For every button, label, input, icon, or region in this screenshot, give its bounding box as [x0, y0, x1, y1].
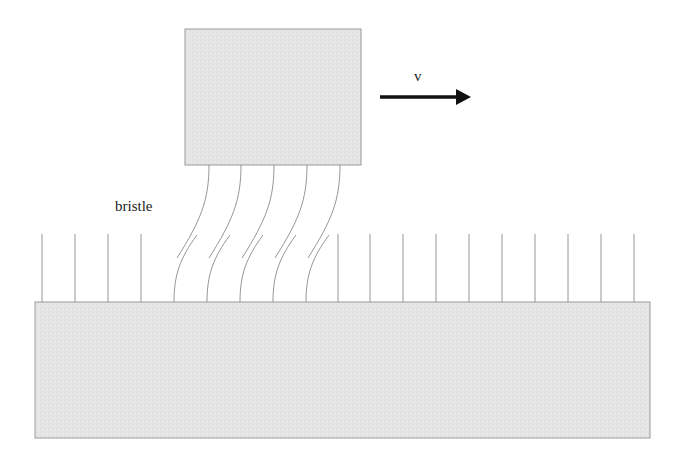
bristle: [242, 165, 274, 258]
bristle: [273, 235, 296, 302]
bristle: [275, 165, 307, 258]
bristle: [177, 165, 209, 258]
upper-deflected-bristles: [177, 165, 340, 258]
bristle-label: bristle: [115, 198, 153, 215]
friction-bristle-diagram: [0, 0, 678, 463]
straight-bristles: [42, 234, 634, 302]
bristle: [207, 235, 230, 302]
bristle: [209, 165, 241, 258]
lower-block: [35, 302, 650, 438]
velocity-arrow-icon: [380, 89, 471, 105]
velocity-label: v: [414, 68, 422, 85]
bristle: [308, 165, 340, 258]
bristle: [240, 235, 263, 302]
upper-block: [185, 29, 361, 165]
bristle: [174, 235, 197, 302]
bristle: [306, 235, 329, 302]
lower-deflected-bristles: [174, 235, 329, 302]
